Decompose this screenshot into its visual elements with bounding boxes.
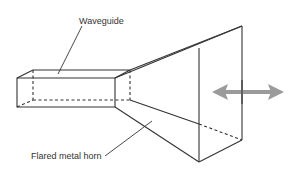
diagram-canvas: [0, 0, 292, 172]
waveguide-label: Waveguide: [79, 17, 124, 26]
waveguide-front-face: [17, 78, 115, 107]
horn-mouth-hidden-edge: [199, 124, 242, 140]
waveguide-top-face: [17, 70, 130, 78]
flared-horn-label: Flared metal horn: [31, 152, 102, 161]
horn-bottom-edge-front: [115, 107, 199, 162]
horn-top-edge-back: [130, 26, 242, 70]
waveguide-leader-line: [58, 26, 82, 74]
horn-mouth-bottom-edge: [199, 140, 242, 162]
horn-side-edge: [130, 100, 199, 124]
horn-leader-line: [105, 121, 152, 156]
double-arrow-icon: [212, 84, 284, 100]
waveguide-hidden-edges: [17, 70, 130, 107]
